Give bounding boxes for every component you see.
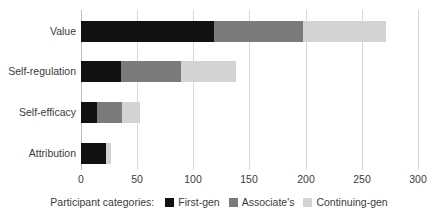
x-tick-label-50: 50 — [131, 173, 143, 185]
legend-swatch-icon — [303, 198, 312, 207]
x-tick-label-200: 200 — [297, 173, 315, 185]
bar-segment-associates[interactable] — [121, 61, 181, 82]
bar-segment-first-gen[interactable] — [81, 61, 121, 82]
x-tick-label-150: 150 — [240, 173, 258, 185]
bar-segment-continuing-gen[interactable] — [122, 102, 140, 123]
y-tick-self-regulation: Self-regulation — [0, 61, 76, 82]
x-tick-label-0: 0 — [78, 173, 84, 185]
legend-item-first-gen[interactable]: First-gen — [165, 196, 219, 208]
legend-title: Participant categories: — [50, 196, 154, 208]
plot-area: Value Self-regulation Self-efficacy — [81, 10, 418, 170]
bar-segment-associates[interactable] — [214, 21, 304, 42]
legend-swatch-icon — [165, 198, 174, 207]
bar-segment-first-gen[interactable] — [81, 143, 106, 164]
legend-item-associates[interactable]: Associate's — [229, 196, 295, 208]
bar-row-attribution[interactable]: Attribution — [81, 143, 111, 164]
legend-item-label: Associate's — [242, 196, 295, 208]
bar-segment-associates[interactable] — [97, 102, 123, 123]
bar-row-self-efficacy[interactable]: Self-efficacy — [81, 102, 140, 123]
bar-row-value[interactable]: Value — [81, 21, 386, 42]
legend-item-continuing-gen[interactable]: Continuing-gen — [303, 196, 387, 208]
x-tick-label-100: 100 — [184, 173, 202, 185]
chart-legend: Participant categories: First-gen Associ… — [0, 196, 438, 208]
legend-item-label: Continuing-gen — [316, 196, 387, 208]
bar-segment-first-gen[interactable] — [81, 21, 214, 42]
x-tick-label-300: 300 — [409, 173, 427, 185]
bar-segment-continuing-gen[interactable] — [106, 143, 112, 164]
bar-segment-continuing-gen[interactable] — [181, 61, 236, 82]
stacked-bar-chart: Value Self-regulation Self-efficacy — [0, 0, 438, 221]
bar-row-self-regulation[interactable]: Self-regulation — [81, 61, 236, 82]
y-tick-label: Self-regulation — [0, 61, 76, 82]
y-tick-label: Attribution — [0, 143, 76, 164]
x-tick-label-250: 250 — [353, 173, 371, 185]
y-tick-attribution: Attribution — [0, 143, 76, 164]
y-tick-label: Self-efficacy — [0, 102, 76, 123]
y-tick-label: Value — [0, 21, 76, 42]
legend-item-label: First-gen — [178, 196, 219, 208]
y-tick-self-efficacy: Self-efficacy — [0, 102, 76, 123]
bar-segment-continuing-gen[interactable] — [303, 21, 386, 42]
y-tick-value: Value — [0, 21, 76, 42]
bar-segment-first-gen[interactable] — [81, 102, 97, 123]
legend-swatch-icon — [229, 198, 238, 207]
gridline-300 — [418, 10, 419, 170]
